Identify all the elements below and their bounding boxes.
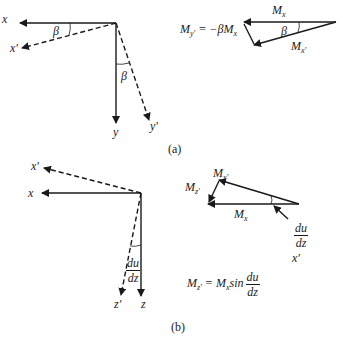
label-mx-prime: Mx': [291, 40, 306, 55]
label-x-prime-b: x': [31, 160, 39, 172]
label-mx-prime-b: Mx': [213, 167, 228, 182]
label-z: z: [141, 298, 146, 310]
equation-mz-prime: Mz' = Mxsin dudz: [187, 271, 260, 298]
caption-a: (a): [168, 143, 181, 155]
label-x: x: [2, 13, 7, 25]
label-du-dz-axis: dudz: [126, 257, 140, 284]
label-beta-side: β: [121, 70, 127, 82]
label-beta-vec: β: [281, 25, 287, 37]
label-mx-b: Mx: [234, 208, 248, 223]
label-y-prime: y': [150, 120, 158, 132]
vector-mz-prime-b: [209, 181, 219, 202]
label-mx: Mx: [272, 4, 286, 19]
angle-arc-b: [130, 245, 141, 246]
vector-my-prime: [244, 24, 254, 44]
label-x-prime: x': [10, 42, 18, 54]
angle-arc-a-vec: [298, 22, 299, 32]
vector-mx-prime-b: [219, 180, 299, 204]
axis-x-prime: [22, 23, 116, 48]
angle-arc-b-vec: [271, 196, 272, 204]
angle-arc-side: [116, 63, 129, 64]
label-du-dz-vec: dudz: [294, 222, 308, 249]
label-x-prime-vec: x': [292, 252, 300, 264]
angle-pointer-arrow: [274, 206, 288, 219]
axis-x-prime-b: [44, 168, 141, 193]
label-z-prime: z': [114, 298, 121, 310]
label-x-b: x: [28, 187, 33, 199]
caption-b: (b): [171, 321, 185, 333]
angle-arc-top: [69, 23, 70, 35]
label-y: y: [113, 126, 118, 138]
label-mz-prime-b: Mz': [185, 181, 200, 196]
label-beta-top: β: [53, 25, 59, 37]
equation-my-prime: My' = −βMx: [180, 23, 237, 38]
